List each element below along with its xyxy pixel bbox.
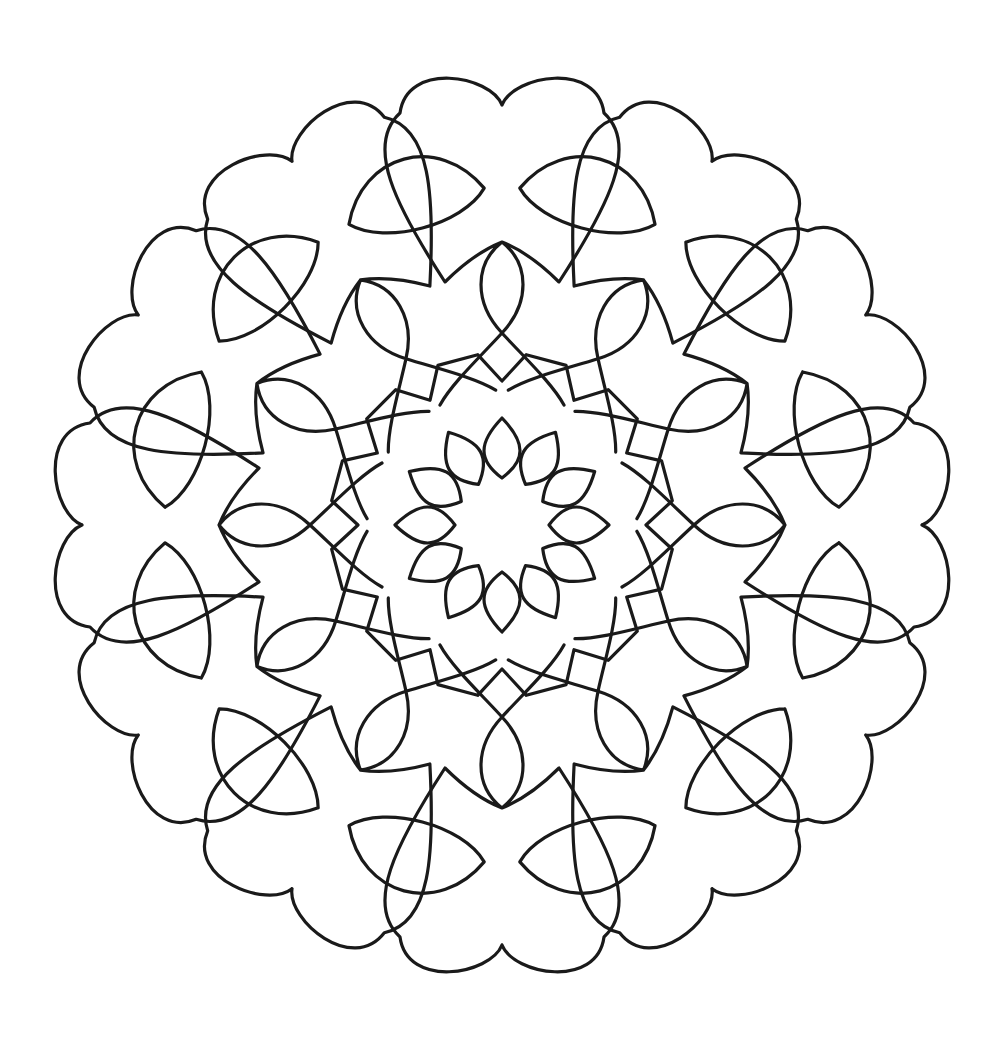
flower-petal — [395, 507, 455, 543]
flower-petal — [484, 418, 520, 478]
center-flower — [395, 418, 609, 632]
mandala-canvas — [0, 0, 1007, 1045]
flower-petal — [549, 507, 609, 543]
loop-motif — [336, 804, 490, 909]
loop-motif — [781, 537, 886, 691]
heart-motif — [547, 200, 947, 566]
heart-motif — [177, 570, 543, 970]
inner-ring-outline — [332, 355, 673, 696]
flower-petal — [484, 572, 520, 632]
heart-motif — [461, 570, 827, 970]
heart-motif — [56, 484, 456, 850]
loop-motif — [118, 359, 223, 513]
heart-motif — [177, 79, 543, 479]
heart-motif — [622, 408, 949, 642]
inner-star-ring — [332, 355, 673, 696]
heart-motif — [56, 200, 456, 566]
loop-motif — [514, 141, 668, 246]
outer-heart-ring — [55, 78, 949, 972]
heart-motif — [461, 79, 827, 479]
loop-motif — [336, 141, 490, 246]
heart-motif — [385, 78, 619, 405]
mandala-drawing — [55, 78, 949, 972]
heart-motif — [55, 408, 382, 642]
heart-motif — [547, 484, 947, 850]
heart-motif — [385, 645, 619, 972]
